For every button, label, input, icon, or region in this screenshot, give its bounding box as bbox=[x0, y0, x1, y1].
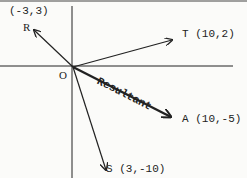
vector-a-name: A bbox=[182, 113, 189, 125]
origin-label: O bbox=[59, 70, 67, 81]
vector-s-coords: (3,-10) bbox=[119, 163, 165, 175]
vector-s-name: S bbox=[106, 163, 113, 175]
vector-t-label: T (10,2) bbox=[182, 29, 235, 40]
vector-t-arrow bbox=[73, 40, 172, 67]
vector-r-arrow bbox=[34, 30, 73, 67]
vector-t-coords: (10,2) bbox=[195, 28, 235, 40]
vector-diagram: (-3,3) R T (10,2) A (10,-5) S (3,-10) O … bbox=[0, 0, 247, 178]
vector-a-coords: (10,-5) bbox=[195, 113, 241, 125]
vector-r-coords: (-3,3) bbox=[9, 6, 49, 17]
vector-s-label: S (3,-10) bbox=[106, 164, 165, 175]
vector-a-label: A (10,-5) bbox=[182, 114, 241, 125]
vector-r-label: R bbox=[23, 22, 30, 33]
vector-t-name: T bbox=[182, 28, 189, 40]
